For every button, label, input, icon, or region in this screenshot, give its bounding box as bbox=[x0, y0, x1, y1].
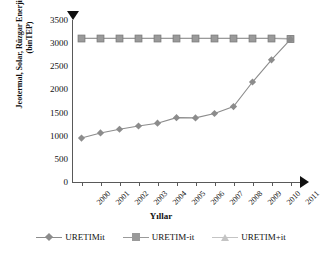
data-point-marker bbox=[192, 35, 199, 42]
legend-item-URETIMit[interactable]: URETIMit bbox=[36, 232, 105, 242]
data-point-marker bbox=[211, 35, 218, 42]
data-point-marker bbox=[268, 35, 275, 42]
data-point-marker bbox=[154, 120, 161, 127]
legend-item-URETIM+it[interactable]: URETIM+it bbox=[212, 232, 286, 242]
data-point-marker bbox=[78, 35, 85, 42]
data-point-marker bbox=[173, 35, 180, 42]
data-point-marker bbox=[249, 35, 256, 42]
data-point-marker bbox=[97, 129, 104, 136]
legend-key-icon bbox=[36, 232, 62, 242]
legend-label: URETIMit bbox=[65, 232, 105, 242]
data-point-marker bbox=[78, 134, 85, 141]
series-URETIMit bbox=[78, 36, 294, 142]
data-point-marker bbox=[173, 114, 180, 121]
data-point-marker bbox=[154, 35, 161, 42]
data-point-marker bbox=[97, 35, 104, 42]
series-URETIM-it bbox=[78, 35, 294, 42]
legend-key-icon bbox=[212, 232, 238, 242]
data-point-marker bbox=[192, 114, 199, 121]
data-point-marker bbox=[230, 35, 237, 42]
legend-label: URETIM-it bbox=[152, 232, 195, 242]
series-line bbox=[82, 39, 291, 138]
legend-item-URETIM-it[interactable]: URETIM-it bbox=[123, 232, 195, 242]
x-axis-title: Yıllar bbox=[0, 211, 322, 221]
data-point-marker bbox=[135, 35, 142, 42]
legend-key-icon bbox=[123, 232, 149, 242]
chart-container: Jeotermal, Solar, Rüzgar Enerjisi Üretim… bbox=[0, 0, 322, 256]
data-point-marker bbox=[135, 122, 142, 129]
data-point-marker bbox=[116, 35, 123, 42]
data-point-marker bbox=[116, 126, 123, 133]
data-point-marker bbox=[211, 110, 218, 117]
legend-label: URETIM+it bbox=[241, 232, 286, 242]
chart-legend: URETIMitURETIM-itURETIM+it bbox=[0, 232, 322, 242]
